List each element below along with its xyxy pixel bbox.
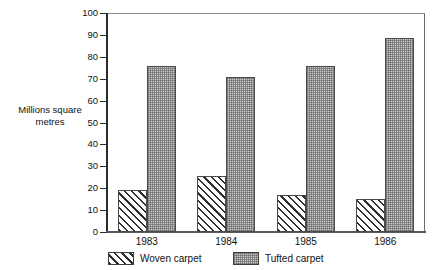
bars-layer bbox=[0, 0, 436, 270]
x-axis-label-1986: 1986 bbox=[358, 236, 412, 247]
legend-item-tufted-carpet: Tufted carpet bbox=[233, 250, 324, 266]
bar-1986-tufted-carpet bbox=[385, 38, 414, 232]
x-axis-label-1984: 1984 bbox=[199, 236, 253, 247]
bar-1985-woven-carpet bbox=[277, 195, 306, 232]
bar-1985-tufted-carpet bbox=[306, 66, 335, 232]
legend-item-woven-carpet: Woven carpet bbox=[108, 250, 202, 266]
legend-label-woven-carpet: Woven carpet bbox=[140, 253, 202, 264]
bar-1983-woven-carpet bbox=[118, 190, 147, 232]
x-axis-label-1983: 1983 bbox=[120, 236, 174, 247]
bar-chart: Millions square metres 01020304050607080… bbox=[0, 0, 436, 270]
legend-swatch-tufted-carpet bbox=[233, 252, 259, 265]
x-axis-label-1985: 1985 bbox=[279, 236, 333, 247]
bar-1984-tufted-carpet bbox=[226, 77, 255, 232]
bar-1986-woven-carpet bbox=[356, 199, 385, 232]
bar-1983-tufted-carpet bbox=[147, 66, 176, 232]
legend-swatch-woven-carpet bbox=[108, 252, 134, 265]
bar-1984-woven-carpet bbox=[197, 176, 226, 232]
legend-label-tufted-carpet: Tufted carpet bbox=[265, 253, 324, 264]
